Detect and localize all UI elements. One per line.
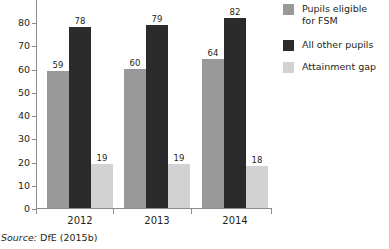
bar: 19 [91, 164, 113, 208]
y-tick-mark [32, 163, 37, 164]
bar-value-label: 78 [75, 16, 86, 26]
y-tick-mark [32, 116, 37, 117]
y-tick-mark [32, 93, 37, 94]
y-tick-label: 30 [18, 133, 30, 144]
legend-item: All other pupils [283, 39, 373, 51]
x-axis-label-2014: 2014 [202, 215, 268, 227]
bar-value-label: 19 [174, 153, 185, 163]
y-tick-mark [32, 23, 37, 24]
x-axis-line [36, 208, 272, 209]
legend-label: Attainment gap [302, 61, 376, 73]
y-tick-label: 60 [18, 64, 30, 75]
bar-value-label: 19 [97, 153, 108, 163]
bar: 82 [224, 18, 246, 208]
bar: 60 [124, 69, 146, 208]
y-tick-mark [32, 46, 37, 47]
y-tick-label: 50 [18, 87, 30, 98]
bar: 19 [168, 164, 190, 208]
y-tick-label: 40 [18, 110, 30, 121]
y-tick-mark [32, 186, 37, 187]
y-tick-mark [32, 139, 37, 140]
legend-item: Pupils eligible for FSM [283, 3, 367, 27]
x-tick-mark [36, 209, 37, 214]
legend-item: Attainment gap [283, 61, 376, 73]
x-axis-label-2013: 2013 [124, 215, 190, 227]
bar-value-label: 59 [53, 60, 64, 70]
bar: 78 [69, 27, 91, 208]
legend-swatch [283, 62, 294, 73]
plot-area: 01020304050607080 597819607919648218 201… [36, 0, 272, 209]
bar-value-label: 82 [230, 7, 241, 17]
bar-value-label: 60 [130, 58, 141, 68]
y-tick-mark [32, 70, 37, 71]
bar-value-label: 64 [208, 48, 219, 58]
legend-label: Pupils eligible for FSM [302, 3, 367, 27]
x-tick-mark [191, 209, 192, 214]
bar: 64 [202, 59, 224, 208]
y-axis-line [36, 0, 37, 209]
bar-value-label: 79 [152, 14, 163, 24]
bar: 18 [246, 166, 268, 208]
bar: 79 [146, 25, 168, 208]
bar-chart-figure: 01020304050607080 597819607919648218 201… [0, 0, 389, 249]
source-text: DfE (2015b) [37, 232, 97, 243]
x-axis-label-2012: 2012 [47, 215, 113, 227]
y-tick-label: 10 [18, 180, 30, 191]
legend-swatch [283, 40, 294, 51]
legend-swatch [283, 4, 294, 15]
legend-label: All other pupils [302, 39, 373, 51]
source-note: Source: DfE (2015b) [1, 232, 97, 244]
source-keyword: Source: [1, 232, 37, 243]
y-tick-label: 70 [18, 40, 30, 51]
x-tick-mark [271, 209, 272, 214]
y-tick-label: 20 [18, 157, 30, 168]
y-tick-label: 0 [24, 203, 30, 214]
y-tick-label: 80 [18, 17, 30, 28]
bar-value-label: 18 [252, 155, 263, 165]
bar: 59 [47, 71, 69, 208]
x-tick-mark [113, 209, 114, 214]
